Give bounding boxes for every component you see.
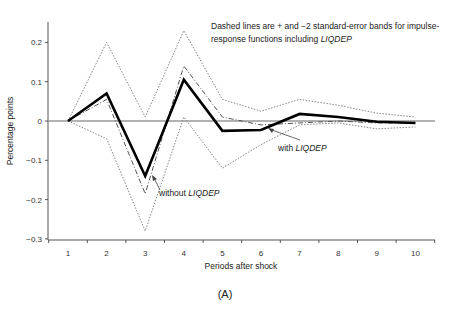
x-tick-label: 5 <box>220 249 225 258</box>
annotation-arrow-with <box>269 129 300 140</box>
series-with-liqdep <box>68 80 415 176</box>
note-line-2-prefix: response functions including <box>211 34 321 44</box>
note-line-1: Dashed lines are + and −2 standard-error… <box>211 21 439 31</box>
y-tick-label: −0.3 <box>26 235 42 244</box>
arrowhead-icon <box>152 175 157 181</box>
y-tick-label: 0.1 <box>31 78 43 87</box>
x-tick-label: 6 <box>259 249 264 258</box>
y-ticks: 0.20.10−0.1−0.2−0.3 <box>26 38 48 244</box>
note-line-2-italic: LIQDEP <box>321 34 353 44</box>
y-tick-label: −0.2 <box>26 196 42 205</box>
x-tick-label: 4 <box>182 249 187 258</box>
series--2-se-band <box>68 117 415 231</box>
y-tick-label: 0.2 <box>31 38 43 47</box>
arrowhead-icon <box>268 128 274 133</box>
y-tick-label: −0.1 <box>26 156 42 165</box>
x-tick-label: 8 <box>336 249 341 258</box>
x-tick-label: 3 <box>143 249 148 258</box>
series--2-se-band <box>68 31 415 121</box>
impulse-response-chart: 0.20.10−0.1−0.2−0.3 12345678910 Percenta… <box>0 0 449 312</box>
x-tick-label: 7 <box>297 249 302 258</box>
panel-label: (A) <box>218 288 233 300</box>
x-tick-label: 1 <box>66 249 71 258</box>
x-tick-label: 10 <box>411 249 420 258</box>
annotation-with: with LIQDEP <box>277 143 327 153</box>
y-tick-label: 0 <box>38 117 43 126</box>
note-line-2: response functions including LIQDEP <box>211 34 352 44</box>
annotation-without: without LIQDEP <box>158 188 220 198</box>
x-tick-label: 2 <box>104 249 109 258</box>
x-tick-label: 9 <box>375 249 380 258</box>
y-axis-title: Percentage points <box>5 97 15 166</box>
x-axis-title: Periods after shock <box>205 261 279 271</box>
series-lines <box>68 31 415 231</box>
x-ticks: 12345678910 <box>49 240 435 258</box>
